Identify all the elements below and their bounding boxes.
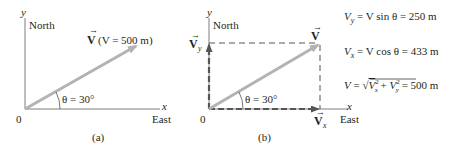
x-axis-label: x xyxy=(346,100,352,112)
vector-v-label: V xyxy=(87,33,96,47)
north-label: North xyxy=(29,19,55,31)
panel-b: y North x East 0 V → V → y V → x θ = 30°… xyxy=(189,6,359,144)
vy-arrow-accent: → xyxy=(191,30,200,40)
panel-a: y North x East 0 V → (V = 500 m) θ = 30°… xyxy=(16,6,171,144)
y-axis-label: y xyxy=(20,6,26,18)
origin-label: 0 xyxy=(16,113,22,125)
equations: Vy = V sin θ = 250 m Vx = V cos θ = 433 … xyxy=(344,10,439,94)
equation-magnitude: V = √V2x + V2y = 500 m xyxy=(344,78,439,94)
origin-label: 0 xyxy=(200,113,206,125)
east-label: East xyxy=(152,113,171,125)
y-axis-label: y xyxy=(206,6,212,18)
vy-subscript: y xyxy=(197,44,202,53)
vector-magnitude-label: (V = 500 m) xyxy=(98,34,153,47)
vector-arrow-accent: → xyxy=(89,25,98,35)
x-axis-label: x xyxy=(161,100,167,112)
angle-label: θ = 30° xyxy=(245,93,277,105)
equation-vy: Vy = V sin θ = 250 m xyxy=(344,10,437,25)
vx-subscript: x xyxy=(322,121,327,130)
angle-arc xyxy=(56,92,60,109)
north-label: North xyxy=(213,19,239,31)
vector-components-diagram: y North x East 0 V → (V = 500 m) θ = 30°… xyxy=(0,0,461,151)
angle-label: θ = 30° xyxy=(62,93,94,105)
equation-vx: Vx = V cos θ = 433 m xyxy=(344,45,439,60)
east-label: East xyxy=(340,113,359,125)
caption-b: (b) xyxy=(258,131,271,144)
caption-a: (a) xyxy=(92,131,105,144)
vector-arrow-accent: → xyxy=(313,22,322,32)
angle-arc xyxy=(239,92,243,109)
vx-arrow-accent: → xyxy=(316,107,325,117)
